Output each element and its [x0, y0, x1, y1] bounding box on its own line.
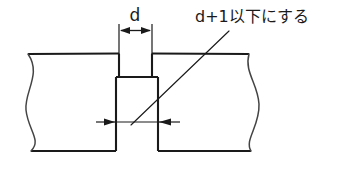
- drawing-canvas: d d+1以下にする: [0, 0, 345, 169]
- upper-dimension-label: d: [130, 5, 141, 25]
- clearance-note-label: d+1以下にする: [195, 7, 309, 26]
- plate-top-edge-left: [28, 54, 119, 55]
- plate-top-edge-right: [152, 54, 249, 55]
- engineering-drawing: d d+1以下にする: [0, 0, 345, 169]
